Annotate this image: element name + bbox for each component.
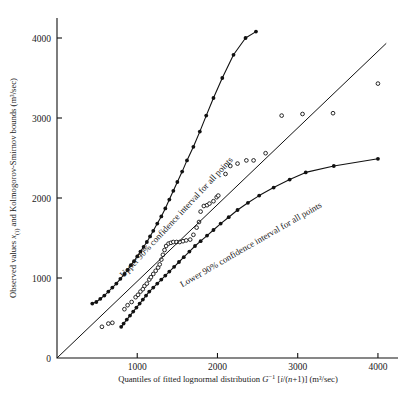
data-point-filled: [187, 250, 191, 254]
data-point-filled: [193, 244, 197, 248]
data-point-filled: [167, 270, 171, 274]
data-point-filled: [155, 282, 159, 286]
data-point-filled: [155, 222, 159, 226]
data-point-filled: [219, 222, 223, 226]
data-point-open: [208, 202, 212, 206]
data-point-filled: [106, 290, 110, 294]
data-point-filled: [212, 228, 216, 232]
data-point-filled: [182, 255, 186, 259]
data-point-filled: [135, 306, 139, 310]
data-point-filled: [128, 314, 132, 318]
data-point-open: [331, 111, 335, 115]
data-point-filled: [332, 164, 336, 168]
data-point-filled: [212, 96, 216, 100]
data-point-filled: [257, 194, 261, 198]
data-point-filled: [163, 274, 167, 278]
data-point-filled: [254, 30, 258, 34]
x-tick-label: 1000: [128, 362, 147, 372]
data-point-open: [212, 199, 216, 203]
data-point-open: [376, 82, 380, 86]
data-point-filled: [244, 36, 248, 40]
data-point-filled: [159, 278, 163, 282]
data-point-filled: [198, 130, 202, 134]
figure-container: 1000200030004000 01000200030004000 Upper…: [0, 0, 405, 399]
data-point-filled: [125, 318, 129, 322]
data-point-open: [107, 322, 111, 326]
data-point-filled: [180, 170, 184, 174]
lognormal-probability-plot-svg: 1000200030004000 01000200030004000 Upper…: [0, 0, 405, 399]
data-point-open: [184, 239, 188, 243]
y-tick-label: 4000: [32, 34, 51, 44]
data-point-filled: [177, 260, 181, 264]
data-point-open: [111, 321, 115, 325]
data-point-open: [163, 248, 167, 252]
data-point-filled: [90, 302, 94, 306]
data-point-open: [216, 194, 220, 198]
data-point-filled: [171, 189, 175, 193]
data-point-open: [188, 238, 192, 242]
data-point-filled: [204, 114, 208, 118]
data-point-open: [245, 159, 249, 163]
data-point-filled: [192, 145, 196, 149]
data-point-filled: [167, 198, 171, 202]
data-point-filled: [141, 298, 145, 302]
x-axis-ticks: 1000200030004000: [128, 353, 388, 372]
data-point-filled: [220, 76, 224, 80]
data-point-filled: [159, 215, 163, 219]
data-point-filled: [376, 157, 380, 161]
data-point-filled: [144, 294, 148, 298]
data-series-layer: [57, 30, 386, 358]
data-point-open: [158, 263, 162, 267]
data-point-open: [301, 112, 305, 116]
data-point-open: [126, 303, 130, 307]
data-point-filled: [175, 180, 179, 184]
y-tick-label: 3000: [32, 114, 51, 124]
data-point-filled: [110, 286, 114, 290]
data-point-open: [199, 210, 203, 214]
data-point-filled: [98, 297, 102, 301]
data-point-filled: [122, 322, 126, 326]
axes-group: [57, 18, 398, 358]
data-point-filled: [205, 234, 209, 238]
data-point-open: [192, 233, 196, 237]
data-point-open: [280, 114, 284, 118]
data-point-filled: [94, 300, 98, 304]
data-point-filled: [236, 208, 240, 212]
x-tick-label: 2000: [208, 362, 227, 372]
data-point-filled: [246, 201, 250, 205]
data-point-filled: [131, 310, 135, 314]
data-point-filled: [163, 207, 167, 211]
series-line: [57, 44, 386, 358]
series-reference-45-degree-line: [57, 44, 386, 358]
data-point-open: [100, 325, 104, 329]
x-tick-label: 3000: [288, 362, 307, 372]
y-tick-label: 2000: [32, 194, 51, 204]
data-point-open: [130, 300, 134, 304]
data-point-filled: [272, 186, 276, 190]
data-point-open: [145, 282, 149, 286]
data-point-filled: [119, 325, 123, 329]
data-point-open: [252, 159, 256, 163]
y-tick-label: 1000: [32, 274, 51, 284]
data-point-filled: [227, 215, 231, 219]
data-point-open: [236, 162, 240, 166]
x-axis-title: Quantiles of fitted lognormal distributi…: [118, 373, 338, 384]
x-tick-label: 4000: [368, 362, 387, 372]
data-point-filled: [304, 171, 308, 175]
data-point-filled: [288, 178, 292, 182]
y-axis-title: Observed values x(i) and Kolmogorov-Smir…: [8, 78, 21, 298]
data-point-filled: [232, 53, 236, 57]
data-point-filled: [138, 302, 142, 306]
data-point-filled: [147, 290, 151, 294]
data-point-filled: [172, 265, 176, 269]
data-point-open: [123, 307, 127, 311]
data-point-filled: [185, 159, 189, 163]
data-point-filled: [151, 286, 155, 290]
data-point-filled: [102, 294, 106, 298]
data-point-open: [264, 151, 268, 155]
data-point-filled: [199, 239, 203, 243]
data-point-filled: [114, 282, 118, 286]
series-upper-90-confidence-interval-for-all-points: [90, 30, 257, 306]
series-observed-values: [100, 82, 380, 329]
y-tick-label: 0: [46, 354, 51, 364]
